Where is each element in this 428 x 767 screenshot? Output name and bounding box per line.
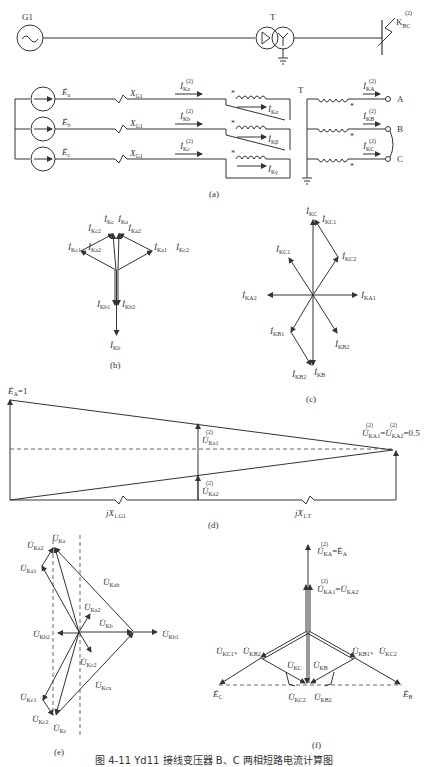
svg-text:İKa2: İKa2: [127, 223, 141, 234]
svg-text:İKC1: İKC1: [321, 214, 336, 225]
svg-text:İKb1: İKb1: [96, 299, 110, 310]
svg-text:U̇Kb1: U̇Kb1: [162, 629, 179, 640]
svg-text:U̇Ka2: U̇Ka2: [84, 602, 101, 613]
panel-c-caption: (c): [306, 394, 316, 404]
svg-text:C: C: [397, 154, 403, 164]
one-line-diagram: G1 T KBC (2): [17, 10, 412, 64]
svg-text:(2): (2): [390, 422, 397, 429]
svg-text:İKB2: İKB2: [291, 369, 306, 380]
panel-b-caption: (b): [110, 360, 121, 370]
svg-text:U̇Kc: U̇Kc: [53, 723, 67, 734]
svg-text:U̇KA=ĖA: U̇KA=ĖA: [317, 546, 348, 557]
svg-text:İKC: İKC: [305, 206, 317, 217]
svg-text:(2): (2): [405, 10, 412, 17]
svg-text:İKc1: İKc1: [67, 242, 81, 253]
svg-text:İKC2: İKC2: [341, 251, 356, 262]
panel-b-current-phasors: İKc İKa İKc2 İKa2 İKc1 İKa2 İKa1 İKc2 İK…: [67, 214, 189, 370]
svg-text:*: *: [231, 119, 235, 128]
transformer-label: T: [270, 12, 276, 22]
svg-text:U̇KB: U̇KB: [313, 660, 328, 671]
svg-text:İKb: İKb: [109, 340, 120, 351]
svg-text:U̇KC: U̇KC: [287, 660, 302, 671]
svg-text:U̇KB1、U̇KC2: U̇KB1、U̇KC2: [352, 646, 397, 657]
svg-text:T: T: [298, 85, 304, 95]
svg-text:ĖA=1: ĖA=1: [7, 386, 27, 397]
svg-text:İKB: İKB: [313, 367, 325, 378]
reactance-icon: [302, 496, 314, 504]
svg-text:*: *: [350, 102, 354, 111]
svg-text:U̇KC2: U̇KC2: [288, 692, 306, 703]
source-a: Ėa XG1 İKa (2): [15, 78, 226, 111]
svg-text:(2): (2): [186, 108, 193, 115]
wye-windings: * A * B * C İKA (2) İKB (2) İKC (2): [302, 78, 404, 184]
svg-text:(2): (2): [321, 578, 328, 585]
delta-windings: * İKα * İKβ * İKγ: [226, 89, 290, 178]
svg-text:U̇Ka2: U̇Ka2: [27, 540, 44, 551]
svg-text:U̇Kc1: U̇Kc1: [20, 692, 37, 703]
bc-short-link: [390, 131, 393, 157]
svg-text:(2): (2): [186, 138, 193, 145]
svg-text:(2): (2): [186, 78, 193, 85]
svg-text:İKc2: İKc2: [87, 223, 101, 234]
svg-text:U̇Kb2: U̇Kb2: [33, 629, 50, 640]
svg-text:XG1: XG1: [129, 118, 143, 129]
svg-text:İKA2: İKA2: [241, 290, 257, 301]
svg-text:İKγ: İKγ: [267, 164, 278, 175]
svg-text:jX1.T: jX1.T: [294, 508, 312, 519]
reactance-icon: [115, 125, 127, 133]
svg-text:B: B: [397, 124, 403, 134]
panel-a-circuit: Ėa XG1 İKa (2) Ėb XG1 İKb (2) Ėc: [15, 78, 404, 199]
svg-text:İKa1: İKa1: [153, 242, 167, 253]
svg-text:U̇Ka1: U̇Ka1: [20, 563, 37, 574]
svg-text:U̇Ka: U̇Ka: [52, 533, 66, 544]
svg-text:(2): (2): [369, 138, 376, 145]
svg-text:jX1.G1: jX1.G1: [105, 508, 126, 519]
reactance-icon: [115, 496, 127, 504]
svg-text:U̇KC1、U̇KB2: U̇KC1、U̇KB2: [216, 646, 261, 657]
svg-text:İKB1: İKB1: [269, 326, 284, 337]
svg-text:U̇Kca: U̇Kca: [95, 680, 111, 691]
svg-text:İKβ: İKβ: [267, 134, 278, 145]
svg-text:(2): (2): [206, 480, 213, 487]
svg-text:İKB2: İKB2: [334, 339, 349, 350]
svg-text:(2): (2): [369, 78, 376, 85]
svg-text:U̇Ka2: U̇Ka2: [202, 486, 219, 497]
generator-label: G1: [22, 12, 33, 22]
source-b: Ėb XG1 İKb (2): [15, 108, 226, 141]
svg-text:İKa: İKa: [117, 214, 128, 225]
svg-text:(2): (2): [321, 541, 328, 548]
panel-d-voltage-distribution: ĖA=1 U̇Ka1 (2) U̇Ka2 (2) U̇KA1=U̇KA2=0.5…: [7, 386, 420, 530]
source-c: Ėc XG1 İKc (2): [15, 138, 226, 171]
svg-text:İKC1: İKC1: [275, 244, 290, 255]
svg-text:İKb2: İKb2: [121, 299, 135, 310]
svg-text:*: *: [350, 162, 354, 171]
svg-text:A: A: [397, 94, 404, 104]
panel-f-caption: (f): [312, 740, 321, 750]
panel-a-caption: (a): [209, 189, 219, 199]
svg-text:İKc2: İKc2: [175, 242, 189, 253]
svg-text:XG1: XG1: [129, 148, 143, 159]
svg-text:KBC: KBC: [396, 17, 411, 29]
svg-text:*: *: [231, 89, 235, 98]
reactance-icon: [115, 155, 127, 163]
panel-c-current-phasors: İKC İKC1 İKC1 İKC2 İKA2 İKA1 İKB1 İKB2 İ…: [241, 206, 376, 404]
svg-text:İKA1: İKA1: [360, 290, 376, 301]
reactance-icon: [115, 95, 127, 103]
svg-text:U̇Kab: U̇Kab: [103, 577, 120, 588]
figure-caption: 图 4-11 Yd11 接线变压器 B、C 两相短路电流计算图: [0, 752, 428, 767]
panel-e-voltage-phasors: U̇Ka U̇Ka2 U̇Ka1 U̇Kab U̇Ka2 U̇Kb U̇Kb2 …: [20, 533, 179, 757]
svg-text:(2): (2): [206, 429, 213, 436]
fault-symbol-icon: [378, 18, 395, 46]
svg-text:U̇Kc2: U̇Kc2: [32, 714, 49, 725]
svg-text:İKc: İKc: [103, 214, 114, 225]
panel-f-voltage-phasors: U̇KA=ĖA (2) U̇KA1=U̇KA2 (2) U̇KC1、U̇KB2 …: [212, 541, 413, 750]
svg-text:U̇Ka1: U̇Ka1: [202, 435, 219, 446]
svg-text:*: *: [350, 132, 354, 141]
svg-text:ĖB: ĖB: [402, 689, 413, 700]
svg-text:Ėb: Ėb: [61, 117, 71, 128]
svg-text:U̇Kc2: U̇Kc2: [80, 657, 97, 668]
svg-text:ĖC: ĖC: [212, 689, 223, 700]
svg-text:Ėa: Ėa: [61, 87, 71, 98]
svg-text:(2): (2): [366, 422, 373, 429]
panel-d-caption: (d): [208, 520, 219, 530]
